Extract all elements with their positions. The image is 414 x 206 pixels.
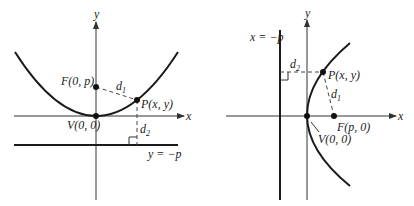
left-d2-label: d2 [140,122,150,138]
right-vertex-point [304,113,310,119]
left-diagram: y x F(0, p) V(0, 0) P(x, y) d1 d2 y = −p [14,7,192,200]
right-x-label: x [397,109,404,123]
right-focus-point [331,113,337,119]
left-y-label: y [93,7,100,21]
parabola-diagrams: y x F(0, p) V(0, 0) P(x, y) d1 d2 y = −p… [0,0,414,206]
right-y-label: y [304,6,311,20]
right-p-point [320,69,326,75]
left-vertex-label: V(0, 0) [67,118,100,132]
right-vertex-leader [311,122,319,132]
right-point-label: P(x, y) [327,68,360,82]
left-right-angle-mark [129,137,137,145]
left-focus-label: F(0, p) [60,74,94,88]
right-parabola [307,43,350,186]
right-directrix-label: x = −p [249,30,284,44]
left-point-label: P(x, y) [140,97,173,111]
right-vertex-label: V(0, 0) [318,132,351,146]
right-d2-label: d2 [290,57,300,73]
left-directrix-label: y = −p [147,147,182,161]
left-p-point [134,97,140,103]
right-right-angle-mark [280,72,288,80]
left-x-label: x [185,109,192,123]
right-d1-label: d1 [331,87,341,103]
left-d1-label: d1 [116,79,126,95]
right-diagram: y x x = −p d2 P(x, y) d1 F(p, 0) V(0, 0) [226,6,404,200]
